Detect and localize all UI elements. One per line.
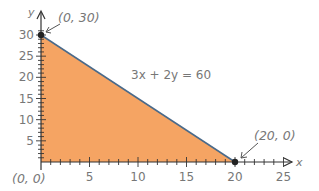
- vertex-point-20-0: [232, 159, 238, 165]
- equation-label: 3x + 2y = 60: [131, 68, 211, 82]
- x-tick-label: 5: [86, 170, 94, 184]
- y-tick-label: 10: [19, 113, 34, 127]
- x-tick-label: 25: [276, 170, 291, 184]
- x-axis-label: x: [295, 156, 303, 169]
- x-tick-label: 10: [130, 170, 145, 184]
- chart: y x 30 25 20 15 10 5 5 10 15 20 25 (0, 3…: [0, 0, 319, 191]
- y-tick-label: 5: [26, 134, 34, 148]
- y-tick-label: 30: [19, 28, 34, 42]
- y-axis-label: y: [27, 6, 35, 19]
- origin-label: (0, 0): [12, 171, 46, 186]
- y-tick-label: 25: [19, 49, 34, 63]
- point-label-0-30: (0, 30): [58, 10, 100, 25]
- y-tick-label: 20: [19, 70, 34, 84]
- arrow-icon: [46, 24, 60, 33]
- arrow-icon: [241, 143, 258, 158]
- y-tick-label: 15: [19, 92, 34, 106]
- point-label-20-0: (20, 0): [254, 128, 296, 143]
- x-tick-label: 15: [179, 170, 194, 184]
- vertex-point-0-30: [38, 32, 44, 38]
- x-tick-label: 20: [227, 170, 242, 184]
